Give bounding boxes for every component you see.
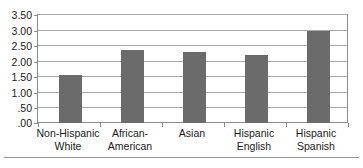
ytick-mark-2-00 xyxy=(34,62,38,63)
gridline-3-00: 3.00 xyxy=(38,30,347,31)
ytick-mark-3-00 xyxy=(34,31,38,32)
category-label-line1: African- xyxy=(112,127,148,139)
category-label-hispanic-spanish: Hispanic Spanish xyxy=(279,127,353,153)
category-label-line2: Spanish xyxy=(279,140,353,153)
gridline-3-50: 3.50 xyxy=(38,14,347,15)
ytick-label-0-00: .00 xyxy=(17,118,32,129)
category-label-line1: Hispanic xyxy=(296,127,336,139)
ytick-label-0-50: .50 xyxy=(17,103,32,114)
ytick-mark-1-00 xyxy=(34,93,38,94)
ytick-mark-3-50 xyxy=(34,15,38,16)
category-label-line1: Hispanic xyxy=(234,127,274,139)
category-label-line1: Non-Hispanic xyxy=(36,127,99,139)
ytick-label-3-50: 3.50 xyxy=(12,10,32,21)
plot-area: 3.50 3.00 2.50 2.00 1.50 1.00 .50 .00 xyxy=(37,14,348,123)
bar-chart-figure: 3.50 3.00 2.50 2.00 1.50 1.00 .50 .00 xyxy=(0,0,363,168)
ytick-mark-0-50 xyxy=(34,108,38,109)
bar-hispanic-spanish[interactable] xyxy=(307,31,330,123)
category-label-line1: Asian xyxy=(179,127,205,139)
ytick-mark-2-50 xyxy=(34,46,38,47)
gridline-2-50: 2.50 xyxy=(38,45,347,46)
bar-hispanic-english[interactable] xyxy=(245,55,268,123)
ytick-label-3-00: 3.00 xyxy=(12,25,32,36)
ytick-label-1-50: 1.50 xyxy=(12,72,32,83)
bar-asian[interactable] xyxy=(183,52,206,123)
ytick-label-2-00: 2.00 xyxy=(12,56,32,67)
ytick-mark-1-50 xyxy=(34,77,38,78)
bar-non-hispanic-white[interactable] xyxy=(59,75,82,123)
ytick-label-1-00: 1.00 xyxy=(12,88,32,99)
bottom-divider-rule xyxy=(4,157,359,158)
bar-african-american[interactable] xyxy=(121,50,144,123)
category-axis-labels: Non-Hispanic White African- American Asi… xyxy=(37,127,348,157)
category-label-line2: American xyxy=(93,140,167,153)
ytick-label-2-50: 2.50 xyxy=(12,41,32,52)
